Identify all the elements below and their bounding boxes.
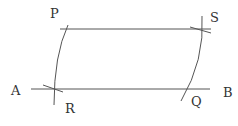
construction-diagram: P S A B R Q: [0, 0, 238, 126]
tick-s: [190, 27, 211, 33]
label-q: Q: [191, 94, 202, 109]
label-p: P: [50, 6, 59, 21]
label-s: S: [210, 10, 219, 25]
arc-rp: [54, 25, 68, 105]
label-b: B: [223, 85, 233, 100]
label-r: R: [65, 101, 76, 116]
label-a: A: [10, 83, 21, 98]
